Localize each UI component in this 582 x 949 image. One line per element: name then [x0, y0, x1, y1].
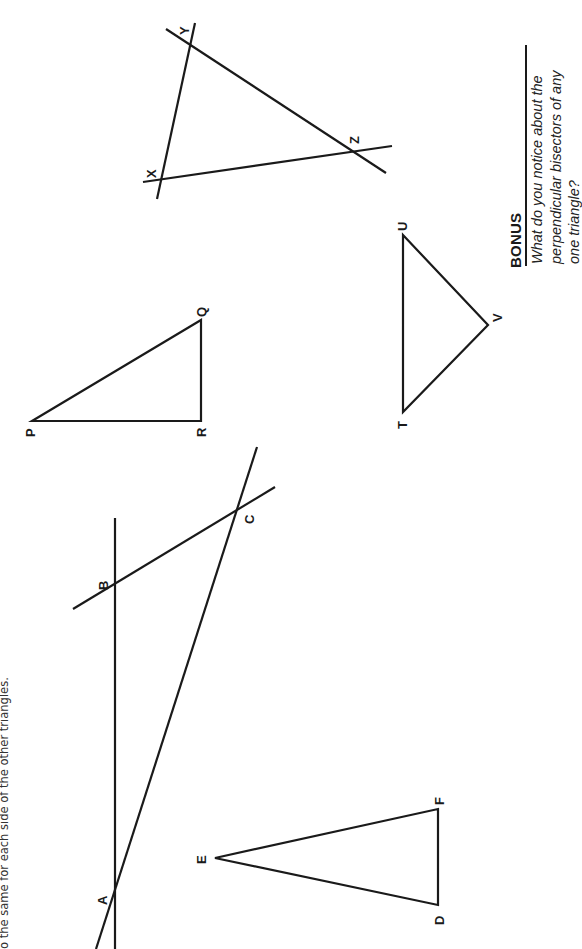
label-t: T [396, 421, 409, 429]
label-y: Y [178, 26, 191, 35]
triangle-tuv [403, 235, 488, 412]
label-r: R [195, 428, 208, 437]
triangle-xyz-lines [143, 23, 392, 199]
label-u: U [396, 222, 409, 231]
label-q: Q [195, 307, 208, 317]
label-d: D [433, 916, 446, 925]
line-xz [143, 146, 392, 182]
label-e: E [195, 855, 208, 864]
label-z: Z [348, 136, 361, 144]
label-x: X [145, 169, 158, 178]
label-p: P [24, 428, 37, 437]
line-ac [96, 447, 257, 949]
line-xy [157, 23, 195, 199]
bonus-question-line-3: one triangle? [566, 180, 582, 264]
line-bc [73, 487, 275, 609]
bonus-question-line-1: What do you notice about the [529, 75, 545, 264]
instruction-text: o the same for each side of the other tr… [0, 677, 11, 949]
label-v: V [491, 313, 504, 322]
bonus-question-line-2: perpendicular bisectors of any [548, 71, 564, 264]
label-a: A [96, 896, 109, 905]
label-c: C [243, 515, 256, 524]
bonus-heading: BONUS [507, 213, 524, 268]
label-b: B [97, 581, 110, 590]
triangle-def [215, 809, 438, 905]
triangle-pqr [32, 320, 201, 421]
bonus-rule [525, 45, 527, 266]
label-f: F [433, 797, 446, 805]
worksheet-figures [0, 0, 582, 949]
